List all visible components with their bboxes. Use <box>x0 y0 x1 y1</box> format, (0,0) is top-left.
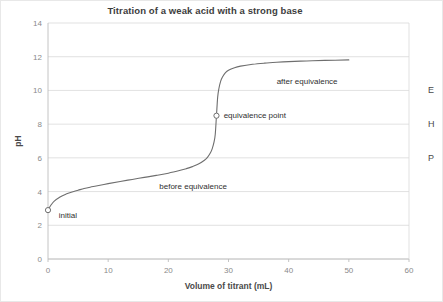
annotation-after-equivalence: after equivalence <box>277 77 338 86</box>
x-axis-tick-label: 60 <box>405 266 414 275</box>
y-axis-tick-label: 10 <box>33 86 42 95</box>
annotation-initial: initial <box>59 211 77 220</box>
x-axis-tick-label: 20 <box>164 266 173 275</box>
clipped-glyph: H <box>428 119 435 129</box>
y-axis-tick-label: 4 <box>38 188 43 197</box>
x-axis-tick-label: 10 <box>104 266 113 275</box>
x-axis-tick-label: 30 <box>224 266 233 275</box>
y-axis-tick-label: 6 <box>38 154 43 163</box>
annotation-equivalence-point: equivalence point <box>224 111 287 120</box>
clipped-text-column: EHP <box>428 1 442 302</box>
clipped-glyph: P <box>428 153 434 163</box>
data-point-marker-equivalence-point[interactable] <box>214 113 219 118</box>
x-axis-tick-label: 0 <box>46 266 51 275</box>
y-axis-tick-label: 14 <box>33 19 42 28</box>
titration-plot: 024681012140102030405060Volume of titran… <box>1 1 443 302</box>
y-axis-tick-label: 12 <box>33 53 42 62</box>
data-point-marker-initial[interactable] <box>45 208 50 213</box>
chart-container: Titration of a weak acid with a strong b… <box>0 0 443 302</box>
clipped-glyph: E <box>428 85 434 95</box>
y-axis-title: pH <box>13 135 23 146</box>
y-axis-tick-label: 0 <box>38 255 43 264</box>
x-axis-tick-label: 50 <box>344 266 353 275</box>
annotation-before-equivalence: before equivalence <box>159 182 227 191</box>
y-axis-tick-label: 2 <box>38 221 43 230</box>
x-axis-title: Volume of titrant (mL) <box>185 281 273 291</box>
y-axis-tick-label: 8 <box>38 120 43 129</box>
x-axis-tick-label: 40 <box>284 266 293 275</box>
